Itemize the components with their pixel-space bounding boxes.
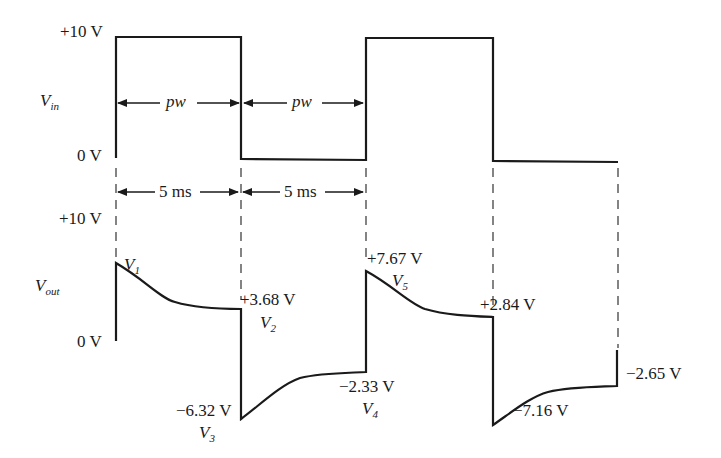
v3-value-label: −6.32 V (176, 402, 232, 419)
v4-value-label: −2.33 V (339, 378, 395, 395)
point6-value-label: +2.84 V (480, 296, 536, 313)
vin-high-level-label: +10 V (60, 23, 103, 40)
v5-label: V5 (392, 272, 408, 292)
pw-label-2: pw (292, 93, 312, 110)
vout-axis-label: Vout (35, 277, 59, 297)
vout-low-level-label: 0 V (77, 333, 102, 350)
v3-label: V3 (199, 424, 215, 444)
pw-label-1: pw (166, 93, 186, 110)
v2-value-label: +3.68 V (240, 291, 296, 308)
vin-waveform (116, 37, 618, 162)
vin-axis-label: Vin (40, 92, 59, 112)
interval-label-2: 5 ms (284, 183, 317, 200)
vin-low-level-label: 0 V (77, 147, 102, 164)
interval-label-1: 5 ms (159, 183, 192, 200)
v1-label: V1 (124, 256, 140, 276)
v2-label: V2 (260, 314, 276, 334)
point7-value-label: −7.16 V (513, 402, 569, 419)
vout-high-level-label: +10 V (59, 210, 102, 227)
v5-value-label: +7.67 V (367, 250, 423, 267)
point8-value-label: −2.65 V (626, 365, 682, 382)
v4-label: V4 (362, 400, 378, 420)
